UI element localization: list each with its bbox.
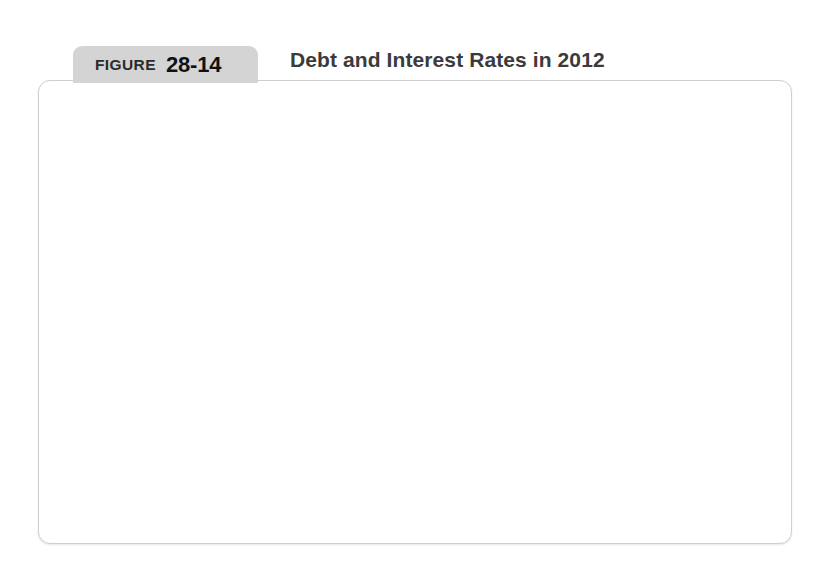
figure-number: 28-14	[166, 52, 221, 78]
chart-panel	[38, 80, 792, 544]
page-title: Debt and Interest Rates in 2012	[290, 48, 605, 72]
figure-tab: FIGURE 28-14	[73, 46, 258, 83]
figure-root: FIGURE 28-14 Debt and Interest Rates in …	[0, 0, 827, 581]
figure-label: FIGURE	[95, 56, 156, 74]
